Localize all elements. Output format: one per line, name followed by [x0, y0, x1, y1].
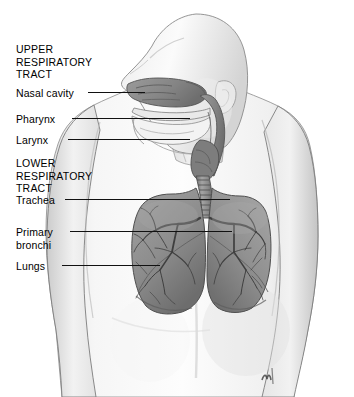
label-lower-respiratory-tract: LOWER RESPIRATORY TRACT [16, 157, 92, 195]
label-upper-respiratory-tract: UPPER RESPIRATORY TRACT [16, 43, 92, 81]
label-trachea: Trachea [16, 194, 55, 207]
leader-line-trachea [65, 199, 230, 200]
label-pharynx: Pharynx [16, 113, 55, 126]
lungs [132, 188, 271, 314]
label-nasal-cavity: Nasal cavity [16, 87, 74, 100]
label-primary-bronchi: Primary bronchi [16, 226, 53, 251]
leader-line-larynx [68, 139, 190, 140]
label-larynx: Larynx [16, 134, 48, 147]
leader-line-primary-bronchi [70, 231, 232, 232]
leader-line-lungs [62, 265, 160, 266]
leader-line-nasal-cavity [88, 92, 145, 93]
leader-line-pharynx [72, 118, 190, 119]
label-lungs: Lungs [16, 260, 45, 273]
respiratory-system-figure: UPPER RESPIRATORY TRACT Nasal cavity Pha… [0, 0, 354, 397]
